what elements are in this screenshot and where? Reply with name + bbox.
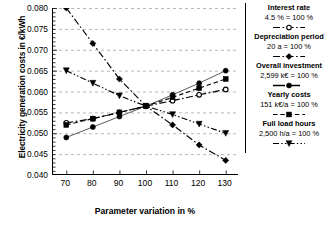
- legend-entry-value: 2,599 k€ = 100 %: [248, 71, 330, 81]
- legend-entry: Overall investment2,599 k€ = 100 %: [248, 61, 330, 90]
- legend-entry-sample: [248, 110, 330, 119]
- legend-entry-value: 20 a = 100 %: [248, 42, 330, 52]
- data-point-marker: [64, 123, 69, 128]
- data-point-marker: [223, 77, 228, 82]
- data-point-marker: [197, 86, 202, 91]
- data-point-marker: [64, 135, 69, 140]
- plot-area: [52, 8, 238, 175]
- data-point-marker: [116, 93, 122, 99]
- legend-line-sample: [272, 139, 306, 148]
- x-axis-tick-label: 110: [157, 178, 187, 188]
- y-axis-tick-label: 0.045: [8, 149, 48, 159]
- legend-entry-title: Depreciation period: [248, 32, 330, 42]
- data-point-marker: [223, 130, 229, 136]
- x-axis-tick-label: 100: [130, 178, 160, 188]
- legend-line-sample: [272, 81, 306, 90]
- data-point-marker: [287, 25, 292, 30]
- y-axis-tick-label: 0.065: [8, 66, 48, 76]
- y-axis-tick-label: 0.070: [8, 45, 48, 55]
- data-point-marker: [90, 116, 95, 121]
- data-point-marker: [287, 83, 292, 88]
- series-line: [66, 71, 225, 134]
- legend-entry: Yearly costs151 k€/a = 100 %: [248, 90, 330, 119]
- legend-entry-sample: [248, 81, 330, 90]
- series-full-load-hours: [63, 68, 228, 136]
- legend-entry: Full load hours2,500 h/a = 100 %: [248, 119, 330, 148]
- x-axis-title: Parameter variation in %: [52, 206, 238, 216]
- data-point-marker: [170, 112, 176, 118]
- data-point-marker: [196, 121, 202, 127]
- chart-legend: Interest rate4.5 % = 100 %Depreciation p…: [245, 3, 329, 153]
- data-point-marker: [90, 80, 96, 86]
- data-point-marker: [170, 95, 175, 100]
- x-axis-tick-label: 70: [50, 178, 80, 188]
- data-point-marker: [286, 53, 292, 59]
- legend-entry-title: Full load hours: [248, 119, 330, 129]
- legend-entry-value: 4.5 % = 100 %: [248, 13, 330, 23]
- legend-entry-value: 151 k€/a = 100 %: [248, 100, 330, 110]
- y-axis-tick-label: 0.060: [8, 87, 48, 97]
- legend-line-sample: [272, 23, 306, 32]
- data-point-marker: [117, 110, 122, 115]
- y-axis-tick-label: 0.050: [8, 128, 48, 138]
- y-axis-tick-label: 0.055: [8, 107, 48, 117]
- legend-entry-title: Overall investment: [248, 61, 330, 71]
- x-axis-tick-label: 80: [77, 178, 107, 188]
- series-line: [66, 8, 225, 160]
- x-axis-tick-label: 130: [210, 178, 240, 188]
- legend-entry-title: Yearly costs: [248, 90, 330, 100]
- legend-entry-sample: [248, 52, 330, 61]
- legend-entry-value: 2,500 h/a = 100 %: [248, 129, 330, 139]
- legend-entry: Interest rate4.5 % = 100 %: [248, 3, 330, 32]
- data-point-marker: [223, 87, 228, 92]
- legend-entry-title: Interest rate: [248, 3, 330, 13]
- data-point-marker: [196, 142, 202, 148]
- y-axis-tick-label: 0.040: [8, 170, 48, 180]
- y-axis-tick-label: 0.075: [8, 24, 48, 34]
- data-point-marker: [197, 93, 202, 98]
- data-point-marker: [223, 68, 228, 73]
- x-axis-tick-label: 90: [103, 178, 133, 188]
- legend-line-sample: [272, 52, 306, 61]
- y-axis-tick-label: 0.080: [8, 3, 48, 13]
- plot-svg: [53, 8, 239, 175]
- series-yearly-costs: [64, 77, 228, 128]
- data-point-marker: [287, 112, 292, 117]
- data-point-marker: [197, 81, 202, 86]
- chart-figure: Electricity generation costs in €/kWh 0.…: [0, 0, 331, 228]
- series-depreciation-period: [63, 8, 229, 163]
- legend-entry-sample: [248, 139, 330, 148]
- data-point-marker: [63, 68, 69, 74]
- legend-entry: Depreciation period20 a = 100 %: [248, 32, 330, 61]
- data-point-marker: [223, 157, 229, 163]
- legend-entry-sample: [248, 23, 330, 32]
- x-axis-tick-label: 120: [183, 178, 213, 188]
- data-point-marker: [90, 124, 95, 129]
- legend-line-sample: [272, 110, 306, 119]
